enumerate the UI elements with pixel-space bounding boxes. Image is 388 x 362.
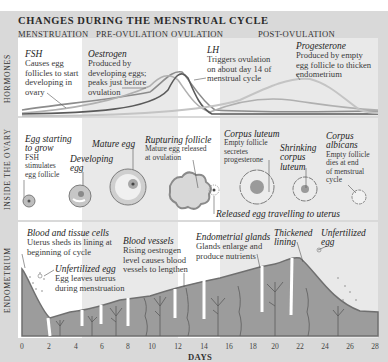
egg-starting-drawing (23, 180, 35, 207)
mature-egg-drawing (110, 146, 146, 205)
label-endometrial-glands: Endometrial glands Glands enlarge and pr… (196, 233, 270, 261)
axis-tick: 12 (174, 342, 182, 351)
axis-tick: 4 (74, 342, 78, 351)
axis-tick: 28 (371, 342, 379, 351)
label-unfertilized-egg-menstruation: Unfertilized egg Egg leaves uterus durin… (55, 265, 124, 293)
axis-tick: 22 (296, 342, 304, 351)
label-corpus-albicans: Corpus albicans Empty follicle dies at e… (326, 132, 370, 184)
axis-tick: 2 (47, 342, 51, 351)
label-blood-tissue: Blood and tissue cells Uterus sheds its … (27, 229, 112, 257)
label-released-egg: Released egg travelling to uterus (216, 210, 340, 219)
label-shrinking-corpus-luteum: Shrinking corpus luteum (280, 144, 316, 172)
label-lh: LH Triggers ovulation on about day 14 of… (207, 46, 271, 84)
shrinking-corpus-luteum-drawing (293, 168, 317, 201)
axis-tick: 16 (225, 342, 233, 351)
corpus-albicans-drawing (348, 185, 366, 204)
developing-egg-drawing (69, 172, 91, 207)
axis-tick: 0 (20, 342, 24, 351)
axis-tick: 24 (321, 342, 329, 351)
axis-tick: 20 (271, 342, 279, 351)
pointer-lh (194, 78, 206, 80)
corpus-luteum-drawing (240, 160, 274, 204)
label-rupturing-follicle: Rupturing follicle Mature egg released a… (145, 136, 211, 162)
label-corpus-luteum: Corpus luteum Empty follicle secretes pr… (224, 130, 279, 165)
label-mature-egg: Mature egg (92, 140, 135, 149)
label-fsh: FSH Causes egg follicles to start develo… (25, 50, 78, 97)
axis-tick: 10 (148, 342, 156, 351)
axis-tick: 6 (100, 342, 104, 351)
axis-tick: 18 (249, 342, 257, 351)
axis-tick: 26 (346, 342, 354, 351)
label-blood-vessels: Blood vessels Rising oestrogen level cau… (123, 237, 188, 275)
axis-tick: 8 (126, 342, 130, 351)
axis-tick: 14 (200, 342, 208, 351)
label-oestrogen: Oestrogen Produced by developing eggs; p… (88, 50, 146, 97)
label-unfertilized-egg-post: Unfertilized egg (321, 229, 366, 248)
label-thickened-lining: Thickened lining (274, 229, 313, 248)
label-egg-starting: Egg starting to grow FSH stimulates egg … (25, 135, 72, 179)
label-progesterone: Progesterone Produced by empty egg folli… (296, 42, 371, 80)
rupturing-follicle-drawing (170, 160, 219, 214)
axis-label-days: DAYS (188, 352, 212, 362)
label-developing-egg: Developing egg (70, 155, 113, 174)
